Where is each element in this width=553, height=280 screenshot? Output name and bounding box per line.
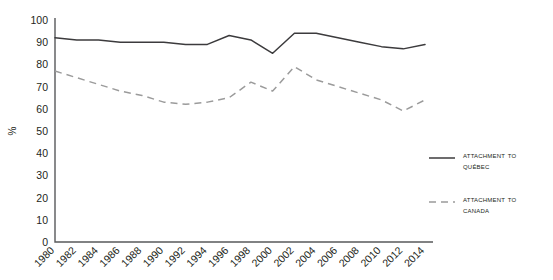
legend-label-attachment-to-canada: Attachment to Canada — [463, 194, 516, 216]
legend-item-attachment-to-canada: Attachment to Canada — [429, 194, 549, 216]
x-tick-label: 1980 — [31, 244, 56, 269]
legend-solid-line-icon — [429, 155, 455, 161]
legend-label-line2: Canada — [463, 205, 489, 215]
x-tick-label: 1990 — [140, 244, 165, 269]
y-tick-label: 20 — [36, 192, 48, 204]
chart-canvas: 0102030405060708090100 19801982198419861… — [0, 0, 553, 280]
legend-item-attachment-to-quebec: Attachment to Québec — [429, 150, 549, 172]
x-tick-label: 1986 — [97, 244, 122, 269]
y-tick-label: 90 — [36, 36, 48, 48]
legend-label-line2: Québec — [463, 161, 490, 171]
y-tick-label: 10 — [36, 214, 48, 226]
y-axis-tick-labels: 0102030405060708090100 — [30, 14, 48, 248]
x-tick-label: 2008 — [336, 244, 361, 269]
y-tick-label: 30 — [36, 169, 48, 181]
x-tick-label: 2004 — [293, 244, 318, 269]
y-axis-title: % — [7, 126, 18, 135]
x-tick-label: 1996 — [206, 244, 231, 269]
legend-label-attachment-to-quebec: Attachment to Québec — [463, 150, 516, 172]
legend-label-line1: Attachment to — [463, 194, 516, 204]
line-chart: 0102030405060708090100 19801982198419861… — [0, 0, 553, 280]
y-tick-label: 60 — [36, 103, 48, 115]
x-tick-label: 2002 — [271, 244, 296, 269]
y-tick-label: 100 — [30, 14, 48, 26]
x-tick-label: 1992 — [162, 244, 187, 269]
x-tick-label: 2000 — [249, 244, 274, 269]
x-tick-label: 1982 — [53, 244, 78, 269]
legend-dashed-line-icon — [429, 199, 455, 205]
chart-axes — [55, 18, 433, 242]
x-tick-label: 2006 — [314, 244, 339, 269]
y-tick-label: 80 — [36, 58, 48, 70]
y-tick-label: 70 — [36, 81, 48, 93]
x-axis-tick-labels: 1980198219841986198819901992199419961998… — [31, 244, 426, 269]
y-tick-label: 40 — [36, 147, 48, 159]
series-line-attachment-to-canada — [55, 67, 425, 111]
x-tick-label: 2012 — [380, 244, 405, 269]
y-tick-label: 50 — [36, 125, 48, 137]
x-tick-label: 1984 — [75, 244, 100, 269]
series-line-attachment-to-quebec — [55, 33, 425, 53]
x-tick-label: 1994 — [184, 244, 209, 269]
chart-legend: Attachment to Québec Attachment to Canad… — [429, 150, 549, 238]
x-tick-label: 2014 — [401, 244, 426, 269]
legend-label-line1: Attachment to — [463, 150, 516, 160]
x-tick-label: 1998 — [227, 244, 252, 269]
x-tick-label: 1988 — [118, 244, 143, 269]
x-tick-label: 2010 — [358, 244, 383, 269]
